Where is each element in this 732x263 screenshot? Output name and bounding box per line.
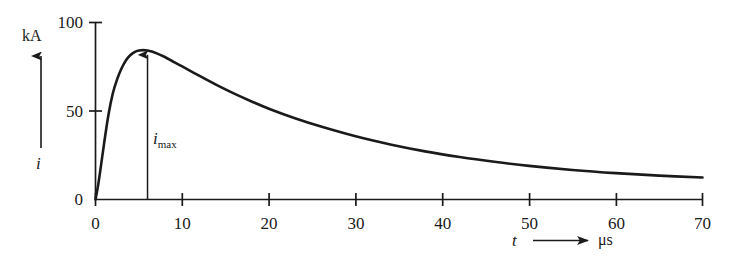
y-tick-label-50: 50 — [38, 103, 83, 120]
x-tick-label-0: 0 — [91, 215, 100, 232]
y-tick-label-0: 0 — [38, 191, 83, 208]
x-tick-label-60: 60 — [608, 215, 625, 232]
x-axis-unit-label: μs — [598, 232, 613, 248]
current-waveform-curve — [96, 50, 703, 199]
x-tick-label-70: 70 — [694, 215, 711, 232]
x-tick-label-50: 50 — [521, 215, 538, 232]
y-axis-quantity-label: i — [36, 155, 41, 172]
x-tick-label-20: 20 — [261, 215, 278, 232]
y-tick-label-100: 100 — [38, 14, 83, 31]
lightning-current-impulse-chart: kA i 100 50 0 0 10 20 30 40 50 60 70 ima… — [0, 0, 732, 263]
i-max-label-subscript: max — [158, 138, 177, 150]
x-tick-label-30: 30 — [347, 215, 364, 232]
x-tick-label-10: 10 — [174, 215, 191, 232]
x-tick-label-40: 40 — [434, 215, 451, 232]
i-max-annotation-label: imax — [153, 130, 177, 150]
x-axis-quantity-label: t — [512, 232, 517, 249]
